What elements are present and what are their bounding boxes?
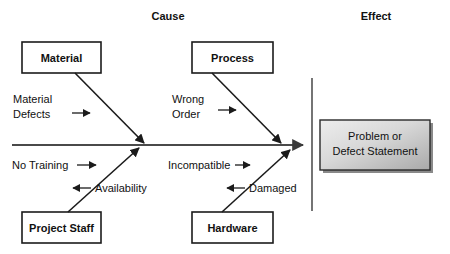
bone-material [75,73,144,143]
bone-process [212,73,281,143]
category-label-material: Material [41,52,83,64]
cause-label-material-defects-line1: Material [13,93,52,105]
bone-hardware [222,150,290,212]
bone-project-staff [68,148,139,212]
effect-label-line2: Defect Statement [333,145,418,157]
fishbone-diagram-canvas: Cause Effect Material Material Defects P… [0,0,450,254]
category-label-process: Process [211,52,254,64]
category-label-hardware: Hardware [207,222,257,234]
header-cause: Cause [151,10,184,22]
effect-label-line1: Problem or [348,130,402,142]
cause-label-damaged: Damaged [249,182,297,194]
cause-label-wrong-order-line1: Wrong [172,93,204,105]
cause-label-incompatible: Incompatible [168,159,230,171]
cause-label-no-training: No Training [12,159,68,171]
header-effect: Effect [361,10,392,22]
fishbone-diagram: Cause Effect Material Material Defects P… [0,0,450,254]
cause-label-availability: Availability [95,182,147,194]
category-label-project-staff: Project Staff [29,222,94,234]
cause-label-material-defects-line2: Defects [13,108,51,120]
cause-label-wrong-order-line2: Order [172,108,200,120]
